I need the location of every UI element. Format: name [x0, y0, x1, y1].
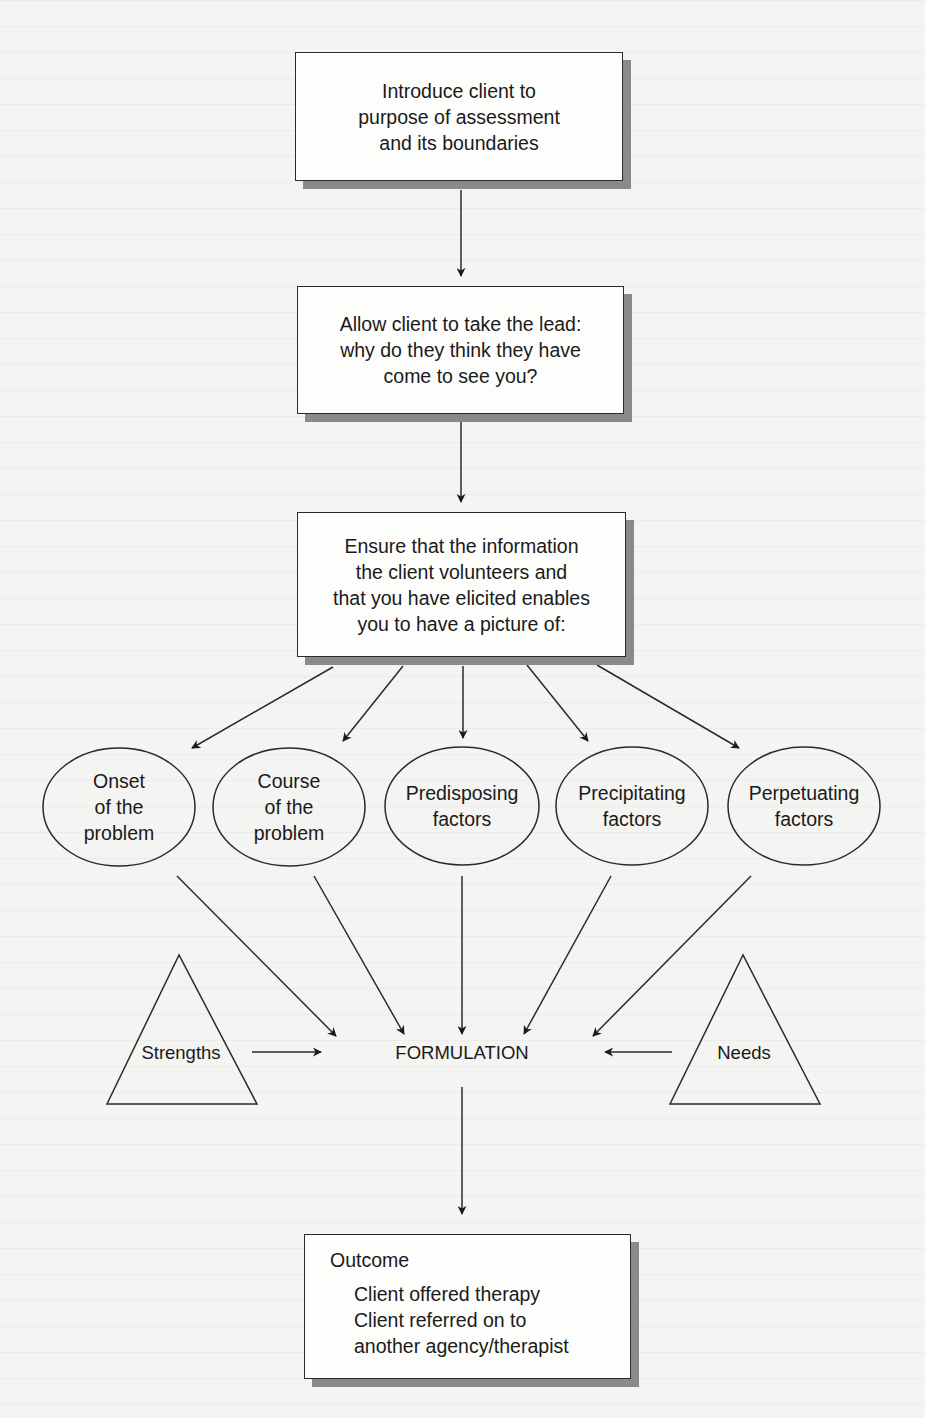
- factor-text: Perpetuating: [749, 780, 860, 806]
- factor-text: Predisposing: [406, 780, 519, 806]
- factor-text: Precipitating: [578, 780, 685, 806]
- step-text: that you have elicited enables: [333, 585, 590, 611]
- outcome-box: Outcome Client offered therapy Client re…: [304, 1234, 631, 1379]
- factor-text: factors: [775, 806, 834, 832]
- factor-onset-label: Onset of the problem: [43, 748, 195, 866]
- factor-text: problem: [84, 820, 154, 846]
- factor-precipitating-label: Precipitating factors: [556, 747, 708, 865]
- step-text: purpose of assessment: [358, 104, 560, 130]
- triangle-strengths: [107, 955, 257, 1104]
- outcome-item: Client referred on to: [330, 1307, 526, 1333]
- arrow-course-to-formulation: [314, 876, 404, 1034]
- strengths-label: Strengths: [141, 1042, 220, 1064]
- step-introduce-box: Introduce client to purpose of assessmen…: [295, 52, 623, 181]
- arrow-to-precipitating: [527, 665, 588, 741]
- arrow-precipitating-to-formulation: [524, 876, 611, 1034]
- needs-label: Needs: [717, 1042, 770, 1064]
- factor-perpetuating-label: Perpetuating factors: [728, 747, 880, 865]
- factor-predisposing-label: Predisposing factors: [385, 747, 539, 865]
- step-text: Introduce client to: [382, 78, 536, 104]
- factor-text: factors: [603, 806, 662, 832]
- formulation-label: FORMULATION: [395, 1042, 528, 1064]
- factor-text: Course: [258, 768, 321, 794]
- triangle-needs: [670, 955, 820, 1104]
- diagram-connectors: [0, 0, 925, 1418]
- factor-text: problem: [254, 820, 324, 846]
- arrow-to-perpetuating: [597, 665, 739, 748]
- step-text: Ensure that the information: [344, 533, 578, 559]
- arrow-perpetuating-to-formulation: [593, 876, 751, 1036]
- step-text: the client volunteers and: [356, 559, 567, 585]
- factor-course-label: Course of the problem: [213, 748, 365, 866]
- outcome-heading: Outcome: [330, 1247, 409, 1273]
- step-ensure-info-box: Ensure that the information the client v…: [297, 512, 626, 657]
- factor-text: of the: [95, 794, 144, 820]
- outcome-item: Client offered therapy: [330, 1281, 540, 1307]
- arrow-to-course: [343, 666, 403, 741]
- factor-text: of the: [265, 794, 314, 820]
- step-text: Allow client to take the lead:: [340, 311, 582, 337]
- outcome-item: another agency/therapist: [330, 1333, 569, 1359]
- arrow-onset-to-formulation: [177, 876, 336, 1036]
- step-take-lead-box: Allow client to take the lead: why do th…: [297, 286, 624, 414]
- factor-text: factors: [433, 806, 492, 832]
- step-text: and its boundaries: [379, 130, 538, 156]
- step-text: why do they think they have: [340, 337, 581, 363]
- step-text: come to see you?: [384, 363, 538, 389]
- factor-text: Onset: [93, 768, 145, 794]
- step-text: you to have a picture of:: [357, 611, 565, 637]
- arrow-to-onset: [192, 667, 333, 748]
